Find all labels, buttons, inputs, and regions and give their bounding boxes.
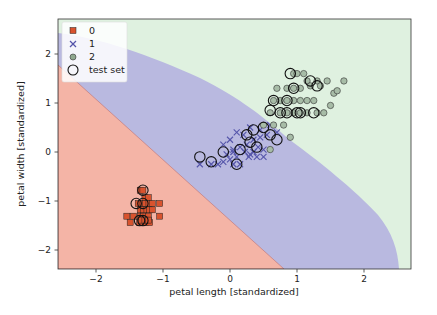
class-2-point — [280, 122, 286, 128]
legend-circle-icon — [70, 54, 76, 60]
x-tick-label: 2 — [361, 274, 367, 284]
y-axis-label: petal width [standardized] — [15, 81, 26, 206]
class-0-point — [140, 187, 146, 193]
class-2-point — [284, 97, 290, 103]
class-0-point — [149, 207, 155, 213]
class-2-point — [267, 146, 273, 152]
class-2-point — [287, 134, 293, 140]
class-2-point — [290, 85, 296, 91]
class-0-point — [131, 213, 137, 219]
x-axis-label: petal length [standardized] — [169, 286, 298, 297]
x-tick-label: −1 — [156, 274, 169, 284]
legend-label-1: 1 — [89, 38, 95, 49]
y-tick-label: 1 — [45, 98, 51, 108]
class-2-point — [304, 97, 310, 103]
x-tick-label: −2 — [89, 274, 102, 284]
class-2-point — [341, 78, 347, 84]
y-axis: −2−1012 — [38, 49, 58, 255]
class-2-point — [270, 122, 276, 128]
legend-label-0: 0 — [89, 25, 95, 36]
class-2-point — [301, 70, 307, 76]
class-2-point — [311, 97, 317, 103]
class-2-point — [297, 97, 303, 103]
class-0-point — [149, 200, 155, 206]
y-tick-label: −2 — [38, 245, 51, 255]
legend-square-icon — [70, 28, 76, 34]
y-tick-label: −1 — [38, 196, 51, 206]
y-tick-label: 2 — [45, 49, 51, 59]
x-tick-label: 0 — [227, 274, 233, 284]
class-2-point — [334, 88, 340, 94]
class-0-point — [157, 213, 163, 219]
decision-region-chart: −2−1012 −2−1012 petal length [standardiz… — [0, 0, 437, 315]
class-2-point — [327, 102, 333, 108]
class-0-point — [157, 200, 163, 206]
class-0-point — [127, 220, 133, 226]
legend: 0 1 2 test set — [62, 22, 127, 82]
class-2-point — [324, 78, 330, 84]
legend-label-2: 2 — [89, 51, 95, 62]
y-tick-label: 0 — [45, 147, 51, 157]
class-2-point — [274, 85, 280, 91]
class-2-point — [321, 110, 327, 116]
class-2-point — [270, 97, 276, 103]
legend-label-test-set: test set — [89, 64, 125, 75]
x-tick-label: 1 — [294, 274, 300, 284]
x-axis: −2−1012 — [89, 269, 367, 284]
class-0-point — [124, 213, 130, 219]
